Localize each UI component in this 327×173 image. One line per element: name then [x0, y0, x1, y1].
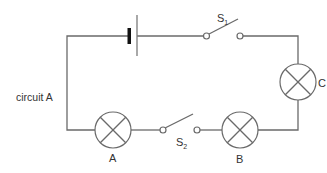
lamp-c-icon: [280, 64, 316, 100]
switch-s2-lever: [165, 114, 193, 128]
switch-s1-terminal-left: [204, 33, 210, 39]
switch-s2-terminal-right: [194, 127, 200, 133]
wire-lamp-c-lamp-b: [258, 100, 298, 130]
circuit-diagram: S1 C A S2 B circuit A: [0, 0, 327, 173]
lamp-a-icon: [95, 112, 131, 148]
lamp-b-icon: [222, 112, 258, 148]
battery-negative-plate: [128, 28, 132, 44]
switch-s2-terminal-left: [160, 127, 166, 133]
lamp-b-label: B: [236, 153, 243, 165]
switch-s2-icon: [160, 114, 200, 133]
switch-s2-label: S2: [176, 136, 187, 150]
lamp-a-label: A: [109, 152, 117, 164]
switch-s1-terminal-right: [237, 33, 243, 39]
circuit-title: circuit A: [16, 91, 53, 103]
wire-s1-lamp-c: [243, 36, 298, 64]
battery-icon: [128, 15, 138, 56]
switch-s1-label: S1: [217, 12, 228, 26]
lamp-c-label: C: [318, 77, 326, 89]
